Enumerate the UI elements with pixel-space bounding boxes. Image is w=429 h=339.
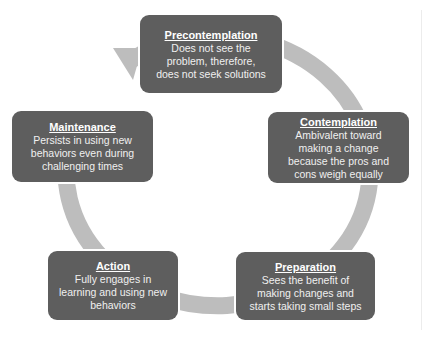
stage-description: Sees the benefit of making changes and s… (249, 274, 361, 313)
stage-title: Action (96, 259, 130, 273)
stage-precontemplation: Precontemplation Does not see the proble… (140, 15, 282, 93)
stage-contemplation: Contemplation Ambivalent toward making a… (268, 112, 409, 183)
stage-preparation: Preparation Sees the benefit of making c… (236, 252, 375, 320)
stage-description: Ambivalent toward making a change becaus… (288, 129, 389, 181)
stage-description: Fully engages in learning and using new … (59, 273, 167, 312)
stage-maintenance: Maintenance Persists in using new behavi… (12, 111, 153, 182)
stage-action: Action Fully engages in learning and usi… (48, 251, 178, 320)
stage-title: Contemplation (300, 115, 377, 129)
stage-title: Maintenance (49, 120, 116, 134)
stage-title: Preparation (275, 260, 336, 274)
page-edge-line (421, 10, 422, 330)
stage-description: Does not see the problem, therefore, doe… (156, 42, 266, 81)
stage-description: Persists in using new behaviors even dur… (31, 134, 134, 173)
stage-title: Precontemplation (165, 28, 258, 42)
